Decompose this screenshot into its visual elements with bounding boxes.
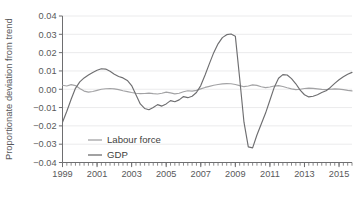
y-tick-label: −0.04: [33, 158, 56, 168]
x-tick-label: 2001: [87, 169, 107, 179]
y-tick-label: 0.02: [39, 48, 57, 58]
x-tick-label: 2009: [225, 169, 245, 179]
line-chart: 0.040.030.020.010.00−0.01−0.02−0.03−0.04…: [0, 0, 360, 197]
x-tick-label: 2015: [329, 169, 349, 179]
y-axis-title: Proportionate deviation from trend: [3, 18, 14, 160]
y-tick-label: 0.04: [39, 11, 57, 21]
chart-container: 0.040.030.020.010.00−0.01−0.02−0.03−0.04…: [0, 0, 360, 197]
y-tick-label: −0.01: [33, 103, 56, 113]
x-tick-label: 1999: [52, 169, 72, 179]
y-tick-label: −0.03: [33, 139, 56, 149]
x-tick-labels-group: 199920012003200520072009201120132015: [52, 169, 349, 179]
legend-label: Labour force: [107, 134, 161, 145]
y-tick-label: 0.00: [39, 85, 57, 95]
legend-label: GDP: [107, 149, 128, 160]
x-tick-label: 2013: [294, 169, 314, 179]
x-tick-label: 2007: [191, 169, 211, 179]
y-tick-label: 0.01: [39, 66, 57, 76]
y-tick-label: −0.02: [33, 121, 56, 131]
y-tick-label: 0.03: [39, 30, 57, 40]
x-tick-label: 2003: [121, 169, 141, 179]
x-tick-label: 2005: [156, 169, 176, 179]
x-tick-label: 2011: [260, 169, 280, 179]
